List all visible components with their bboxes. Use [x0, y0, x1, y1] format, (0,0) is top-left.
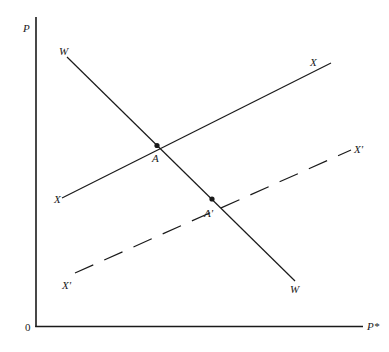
- point-a-label: A: [151, 152, 159, 164]
- x-curve-label-start: X: [53, 193, 62, 205]
- point-a: [154, 143, 159, 148]
- point-a-prime: [209, 196, 214, 201]
- point-a-prime-label: A': [203, 207, 214, 219]
- x-curve-label-end: X: [309, 56, 318, 68]
- w-curve-label-end: W: [290, 283, 300, 295]
- origin-label: 0: [25, 321, 31, 333]
- x-prime-curve-label-start: X': [61, 279, 72, 291]
- w-curve-label-start: W: [59, 45, 69, 57]
- y-axis-label: P: [22, 22, 30, 34]
- w-curve: [67, 57, 295, 281]
- x-prime-curve-label-end: X': [353, 143, 364, 155]
- x-curve: [62, 63, 331, 198]
- economic-diagram: P P* 0 W W X X X' X' A A': [0, 0, 389, 352]
- x-axis-label: P*: [366, 320, 380, 332]
